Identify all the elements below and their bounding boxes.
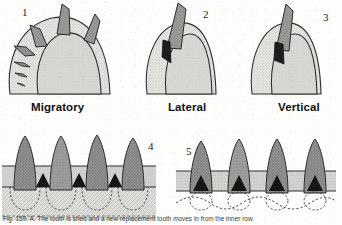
crypt-outline-group	[190, 192, 326, 210]
functional-tooth	[122, 138, 144, 190]
crypt-outline	[304, 192, 326, 210]
panel-1-number: 1	[22, 7, 28, 18]
panel-2-number: 2	[203, 9, 209, 20]
figure-container: 1 Migratory 2 Lateral	[0, 0, 342, 225]
figure-caption: Fig. 159. A. The tooth is shed and a new…	[3, 215, 339, 223]
dental-lamina-line	[176, 197, 336, 209]
functional-tooth	[14, 136, 36, 190]
functional-tooth	[86, 135, 108, 190]
crypt-outline	[190, 192, 212, 210]
panel-2-mode-label: Lateral	[168, 101, 206, 113]
panel-2-illustration	[135, 0, 230, 95]
panel-4-number: 4	[148, 141, 154, 152]
panel-3-mode-label: Vertical	[278, 101, 320, 113]
functional-tooth	[50, 136, 72, 190]
panel-5-illustration	[176, 133, 342, 221]
tooth-upright-1	[57, 4, 70, 35]
panel-5-number: 5	[186, 146, 192, 157]
panel-3-number: 3	[323, 12, 329, 23]
panel-4-illustration	[2, 128, 170, 220]
panel-1-illustration	[0, 0, 135, 95]
replacement-tooth-vertical	[274, 42, 284, 64]
panel-1-mode-label: Migratory	[31, 101, 84, 113]
crypt-outline	[228, 192, 250, 210]
